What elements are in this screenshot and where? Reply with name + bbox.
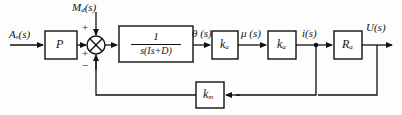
summing-junction-symbol xyxy=(87,36,105,54)
block-label-gain-ka1: ka xyxy=(220,38,229,51)
label-disturbance-signal: Md(s) xyxy=(72,2,96,14)
label-input-signal: As(s) xyxy=(9,29,30,41)
label-mu-signal: μ (s) xyxy=(241,28,261,39)
block-label-feedback-km: km xyxy=(203,88,213,101)
sign-plus-top: + xyxy=(82,22,88,33)
branch-node-current xyxy=(314,43,318,47)
label-current-signal: i(s) xyxy=(302,28,317,39)
plant-numerator: 1 xyxy=(131,31,181,43)
sign-plus-left: + xyxy=(82,48,88,59)
block-label-gain-p: P xyxy=(56,38,63,50)
diagram-lines xyxy=(0,0,402,115)
block-diagram: As(s) Md(s) θ (s) μ (s) i(s) U(s) + + − … xyxy=(0,0,402,115)
label-theta-signal: θ (s) xyxy=(192,28,212,39)
block-label-plant: 1 s(Is+D) xyxy=(131,31,181,57)
plant-denominator: s(Is+D) xyxy=(131,46,181,57)
label-output-signal: U(s) xyxy=(366,22,386,33)
sign-minus-bottom: − xyxy=(82,60,88,71)
block-label-gain-ka2: ka xyxy=(277,38,286,51)
block-label-gain-ra: Ra xyxy=(342,38,353,51)
